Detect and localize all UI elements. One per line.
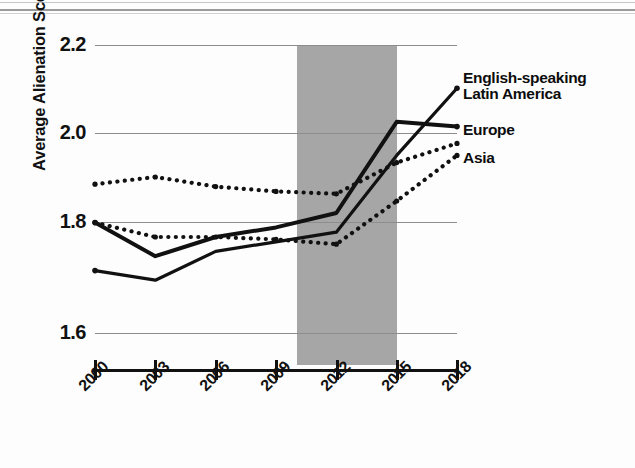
series-line-asia [95, 155, 457, 244]
data-point [213, 234, 218, 239]
data-point [153, 234, 158, 239]
data-point [334, 242, 339, 247]
data-point [92, 182, 97, 187]
data-point [394, 198, 399, 203]
series-label-europe: Europe [463, 122, 515, 138]
data-point [454, 85, 460, 91]
series-label-line-1: English-speaking [463, 70, 587, 86]
series-label-asia: Asia [463, 150, 495, 166]
line-chart: 2.2 2.0 1.8 1.6 Average Alienation Score… [0, 0, 635, 468]
series-label-english-speaking-latin-america: English-speaking Latin America [463, 70, 587, 103]
data-point [92, 220, 97, 225]
page-canvas: 2.2 2.0 1.8 1.6 Average Alienation Score… [0, 0, 635, 468]
data-point [394, 160, 399, 165]
data-point [92, 268, 98, 274]
data-point [273, 237, 278, 242]
data-point [273, 189, 278, 194]
data-point [454, 153, 459, 158]
data-point [213, 184, 218, 189]
data-point [454, 124, 460, 130]
data-point [454, 141, 459, 146]
series-label-line-2: Latin America [463, 86, 587, 102]
data-point [334, 191, 339, 196]
data-point [153, 174, 158, 179]
